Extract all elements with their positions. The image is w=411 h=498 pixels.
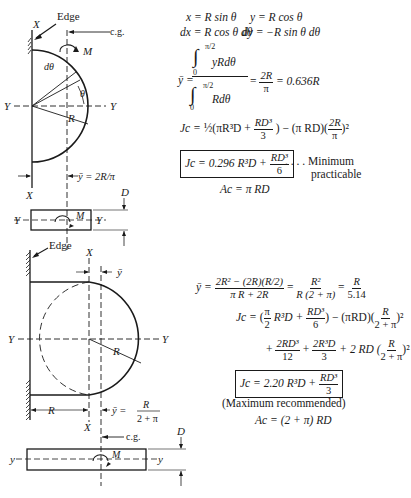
x-label-top: X xyxy=(32,18,41,30)
eq-y-cos: y = R cos θ xyxy=(250,11,302,23)
x-label-top-bottom: X xyxy=(85,246,94,258)
int-denominator: Rdθ xyxy=(212,93,230,105)
integral-sign-lower: ∫ xyxy=(190,83,195,105)
depth-label: D xyxy=(120,186,129,198)
ybar-num-label: R xyxy=(142,399,149,410)
jc-equation-top: Jc = ½(πR³D + RD³3 ) − (π RD)(2Rπ)² xyxy=(180,117,349,141)
ybar-result-num: 2R xyxy=(260,70,272,81)
section-y-right: Y xyxy=(96,214,104,226)
jc-equation-bottom-line2: + 2RD³12 + 2R³D3 + 2 RD (R2 + π)² xyxy=(266,338,410,362)
radius-label: R xyxy=(67,112,75,124)
cg-label: c.g. xyxy=(110,26,124,37)
r-dimension-label: R xyxy=(47,404,55,416)
semicircle-arc-bottom xyxy=(89,282,138,395)
ybar-value: = 0.636R xyxy=(276,75,320,87)
ybar-den-label: 2 + π xyxy=(137,413,158,424)
section-y-left-bottom: y xyxy=(9,453,15,465)
x-label-bottom: X xyxy=(25,189,34,201)
area-bottom: Ac = (2 + π) RD xyxy=(255,414,332,426)
int-upper-limit-1: π/2 xyxy=(205,43,215,52)
semicircle-weld-diagram: Edge X c.g. M dθ θ Y Y R ȳ = 2R/π X D Y … xyxy=(0,0,180,250)
y-label-right-bottom: Y xyxy=(162,333,170,345)
ybar-label: ȳ = 2R/π xyxy=(77,171,116,182)
edge-label: Edge xyxy=(57,10,80,22)
note-practicable: practicable xyxy=(311,168,361,181)
edge-hatch xyxy=(28,38,31,54)
section-moment-bottom: M xyxy=(111,449,121,460)
integral-sign-upper: ∫ xyxy=(193,45,198,67)
int-lower-limit-2: 0 xyxy=(190,104,194,113)
depth-label-bottom: D xyxy=(176,425,185,437)
ybar-eq-label: ȳ = xyxy=(111,405,126,416)
area-top: Ac = π RD xyxy=(220,183,270,195)
combined-weld-diagram: Edge X ȳ Y Y R R ȳ = R 2 + π X c.g. D y … xyxy=(0,230,200,498)
y-label-left: Y xyxy=(4,100,12,112)
weld-section-rect-bottom xyxy=(27,449,146,470)
y-label-right: Y xyxy=(110,100,118,112)
jc-equation-bottom-line1: Jc = (π2 R³D + RD³6) − (πRD)(R2 + π)² xyxy=(236,306,404,330)
radius-label-bottom: R xyxy=(112,345,120,357)
jc-boxed-result-bottom: Jc = 2.20 R³D + RD³3 xyxy=(235,370,343,398)
section-y-left: Y xyxy=(14,214,22,226)
int-upper-limit-2: π/2 xyxy=(203,82,213,91)
int-fraction-bar xyxy=(192,76,248,77)
note-minimum: . . . . Minimum xyxy=(285,155,354,168)
note-maximum-recommended: (Maximum recommended) xyxy=(222,397,346,410)
ybar-equation-bottom: ȳ = 2R² − (2R)(R/2)π R + 2R = R²R (2 + π… xyxy=(196,276,366,300)
jc-boxed-result-top: Jc = 0.296 R³D + RD³6 xyxy=(180,150,294,178)
ybar-top-label: ȳ xyxy=(116,266,123,278)
section-y-right-bottom: y xyxy=(157,453,163,465)
dtheta-label: dθ xyxy=(44,61,54,72)
y-label-left-bottom: Y xyxy=(8,333,16,345)
radius-line xyxy=(32,106,88,124)
ybar-result-den: π xyxy=(264,83,269,95)
cg-label-bottom: c.g. xyxy=(126,431,140,442)
eq-dy: dy = −R sin θ dθ xyxy=(242,26,320,38)
x-label-bottom-bottom: X xyxy=(83,421,92,433)
theta-label: θ xyxy=(80,88,85,99)
moment-label: M xyxy=(82,45,93,57)
edge-label-bottom: Edge xyxy=(49,239,72,251)
int-numerator: yRdθ xyxy=(212,56,236,68)
section-moment-label: M xyxy=(75,210,85,221)
eq-x-sin: x = R sin θ xyxy=(186,11,236,23)
